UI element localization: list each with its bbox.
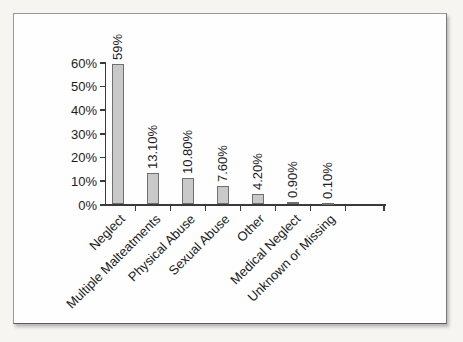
bar xyxy=(322,203,334,205)
y-tick-label: 20% xyxy=(57,151,97,164)
x-axis xyxy=(105,204,386,206)
bar-value-label: 4.20% xyxy=(251,153,264,190)
x-tick xyxy=(383,206,385,211)
x-tick xyxy=(135,206,137,211)
y-tick-label: 30% xyxy=(57,128,97,141)
page: 0%10%20%30%40%50%60%59%Neglect13.10%Mult… xyxy=(0,0,463,342)
bar-value-label: 0.10% xyxy=(321,162,334,199)
bar xyxy=(182,178,194,204)
bar xyxy=(252,194,264,204)
bar-value-label: 7.60% xyxy=(216,145,229,182)
y-tick-label: 0% xyxy=(57,199,97,212)
y-tick-label: 40% xyxy=(57,104,97,117)
y-tick-label: 10% xyxy=(57,175,97,188)
bar-value-label: 59% xyxy=(111,34,124,60)
x-tick xyxy=(170,206,172,211)
x-tick xyxy=(345,206,347,211)
bar-chart: 0%10%20%30%40%50%60%59%Neglect13.10%Mult… xyxy=(14,14,448,325)
y-axis xyxy=(105,62,107,206)
bar-value-label: 13.10% xyxy=(146,125,159,169)
y-tick xyxy=(100,180,105,182)
x-tick xyxy=(240,206,242,211)
bar xyxy=(287,202,299,204)
y-tick xyxy=(100,133,105,135)
bar xyxy=(147,173,159,204)
y-tick-label: 60% xyxy=(57,57,97,70)
x-tick xyxy=(275,206,277,211)
bar xyxy=(217,186,229,204)
x-tick xyxy=(205,206,207,211)
y-tick-label: 50% xyxy=(57,80,97,93)
bar-value-label: 0.90% xyxy=(286,161,299,198)
y-tick xyxy=(100,62,105,64)
bar-value-label: 10.80% xyxy=(181,130,194,174)
y-tick xyxy=(100,157,105,159)
y-tick xyxy=(100,204,105,206)
y-tick xyxy=(100,86,105,88)
bar xyxy=(112,64,124,204)
figure-frame: 0%10%20%30%40%50%60%59%Neglect13.10%Mult… xyxy=(13,13,447,324)
y-tick xyxy=(100,109,105,111)
x-tick xyxy=(310,206,312,211)
